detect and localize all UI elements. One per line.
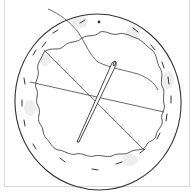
needle-icon	[77, 61, 116, 142]
stitch-dashes	[22, 20, 171, 170]
thread-diagonal	[44, 50, 144, 150]
shading	[24, 16, 174, 166]
sewing-illustration	[0, 0, 194, 193]
dot	[98, 21, 101, 24]
